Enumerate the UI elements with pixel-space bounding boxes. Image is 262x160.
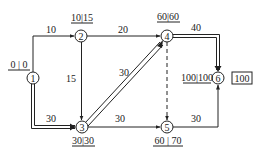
node-4-times: 60|60 <box>157 11 179 22</box>
node-4-label: 4 <box>165 31 170 42</box>
edge-4-6-duration: 40 <box>191 22 201 33</box>
edge-2-4: 20 <box>87 24 160 36</box>
node-2-times: 10|15 <box>71 12 93 23</box>
node-6-label: 6 <box>216 73 221 84</box>
diagram-canvas: 10 30 15 20 30 30 40 3 <box>0 0 262 160</box>
node-6: 6 100|100 100 <box>181 72 252 84</box>
edge-2-3-duration: 15 <box>66 73 76 84</box>
node-5-label: 5 <box>165 122 170 133</box>
node-3: 3 30|30 <box>72 121 95 146</box>
edge-3-5-duration: 30 <box>115 113 125 124</box>
edge-3-5: 30 <box>88 113 160 127</box>
edge-3-4-duration: 30 <box>119 67 129 78</box>
edge-5-6-duration: 30 <box>191 113 201 124</box>
edge-1-2: 10 <box>33 24 74 72</box>
node-1: 1 0 | 0 <box>8 59 39 84</box>
edge-4-6-critical: 40 <box>173 22 222 72</box>
edge-1-2-duration: 10 <box>46 24 56 35</box>
node-5-times: 60 | 70 <box>154 135 181 146</box>
node-1-times: 0 | 0 <box>10 59 27 70</box>
edge-1-3-duration: 30 <box>46 113 56 124</box>
edge-2-3: 15 <box>66 42 82 120</box>
edge-1-3-critical: 30 <box>32 84 77 131</box>
node-2-label: 2 <box>79 31 84 42</box>
node-6-times: 100|100 <box>181 72 213 83</box>
network-diagram: 10 30 15 20 30 30 40 3 <box>0 0 262 160</box>
node-1-label: 1 <box>31 73 36 84</box>
edge-5-6: 30 <box>173 85 218 127</box>
node-3-times: 30|30 <box>72 135 94 146</box>
node-2: 2 10|15 <box>71 12 93 42</box>
project-duration: 100 <box>235 73 250 84</box>
node-3-label: 3 <box>80 122 85 133</box>
edge-2-4-duration: 20 <box>118 24 128 35</box>
node-5: 5 60 | 70 <box>153 121 183 146</box>
